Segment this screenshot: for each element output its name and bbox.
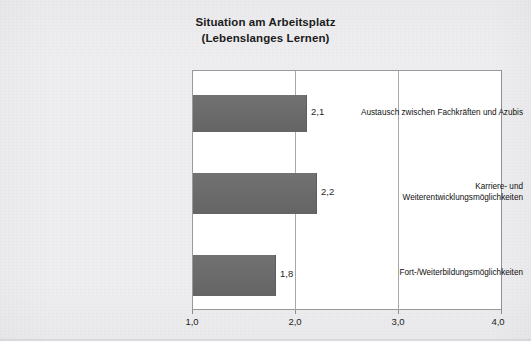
value-label-1: 2,2 xyxy=(321,186,334,197)
category-label-2: Fort-/Weiterbildungsmöglichkeiten xyxy=(353,267,531,278)
chart-title-line2: (Lebenslanges Lernen) xyxy=(0,30,531,46)
value-label-0: 2,1 xyxy=(311,106,324,117)
tick-mark-3 xyxy=(398,310,399,314)
chart-title: Situation am Arbeitsplatz (Lebenslanges … xyxy=(0,14,531,46)
page-bottom-edge xyxy=(0,339,531,342)
bar-0 xyxy=(193,95,307,132)
tick-mark-2 xyxy=(295,310,296,314)
bar-1 xyxy=(193,173,317,214)
bar-2 xyxy=(193,255,276,296)
tick-label-2: 2,0 xyxy=(288,316,301,327)
tick-mark-4 xyxy=(501,310,502,314)
value-label-2: 1,8 xyxy=(280,268,293,279)
tick-label-3: 3,0 xyxy=(391,316,404,327)
tick-label-1: 1,0 xyxy=(185,316,198,327)
chart-title-line1: Situation am Arbeitsplatz xyxy=(195,16,335,28)
category-label-1: Karriere- und Weiterentwicklungsmöglichk… xyxy=(353,181,531,203)
category-label-0: Austausch zwischen Fachkräften und Azubi… xyxy=(353,107,531,118)
tick-mark-1 xyxy=(192,310,193,314)
tick-label-4: 4,0 xyxy=(491,316,504,327)
